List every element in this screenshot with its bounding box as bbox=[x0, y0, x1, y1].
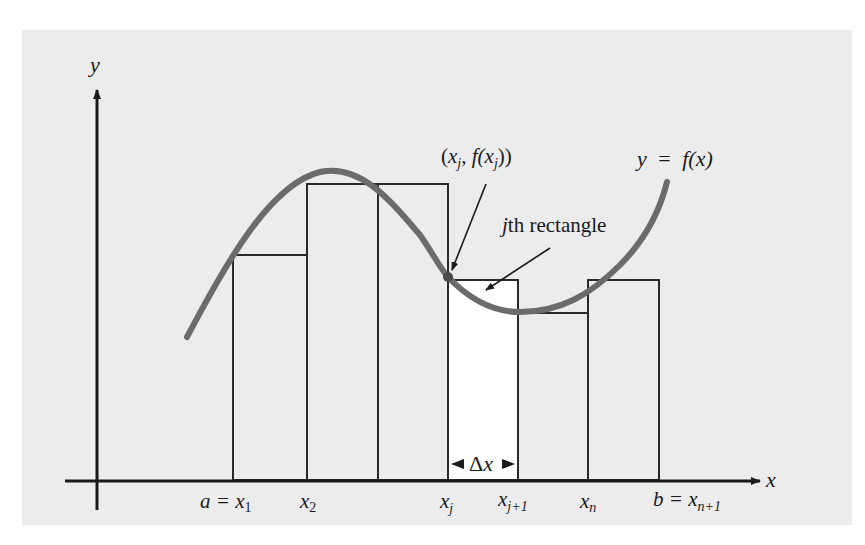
point-label: (xj, f(xj)) bbox=[441, 144, 512, 171]
rectangle-2 bbox=[307, 184, 378, 480]
tick-label-a-x1: a = x1 bbox=[200, 489, 252, 515]
rectangle-5 bbox=[518, 313, 588, 480]
point-annotation-arrow bbox=[452, 184, 486, 270]
rectangle-1 bbox=[233, 255, 307, 480]
curve-label: y = f(x) bbox=[635, 146, 713, 171]
tick-label-x2: x2 bbox=[299, 489, 316, 515]
delta-x-label: Δx bbox=[469, 451, 493, 476]
x-axis-label: x bbox=[765, 467, 776, 492]
point-xj-fxj bbox=[443, 272, 453, 282]
tick-label-b-xn1: b = xn+1 bbox=[653, 487, 721, 514]
tick-label-xj1: xj+1 bbox=[497, 487, 528, 514]
rectangle-6 bbox=[588, 280, 659, 480]
function-curve bbox=[187, 171, 667, 337]
jth-rectangle-label: jth rectangle bbox=[499, 213, 606, 237]
y-axis-label: y bbox=[88, 52, 100, 77]
tick-label-xj: xj bbox=[439, 489, 453, 516]
tick-label-xn: xn bbox=[579, 489, 596, 515]
riemann-sum-figure: y x y = f(x) (xj, f(xj)) jth rectangle Δ… bbox=[0, 0, 865, 545]
